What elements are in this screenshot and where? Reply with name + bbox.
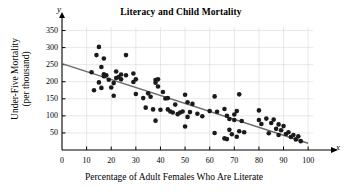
y-tick-label: 50 bbox=[36, 128, 58, 137]
x-tick-label: 20 bbox=[101, 156, 121, 165]
x-tick-label: 10 bbox=[77, 156, 97, 165]
y-tick-label: 150 bbox=[36, 94, 58, 103]
x-tick-label: 50 bbox=[175, 156, 195, 165]
x-axis-title: Percentage of Adult Females Who Are Lite… bbox=[24, 172, 324, 182]
y-tick-label: 100 bbox=[36, 111, 58, 120]
x-tick-label: 40 bbox=[150, 156, 170, 165]
y-axis-title-line1: Under-Five Mortality bbox=[10, 38, 20, 120]
x-tick-label: 60 bbox=[200, 156, 220, 165]
x-tick-label: 80 bbox=[249, 156, 269, 165]
y-tick-label: 250 bbox=[36, 60, 58, 69]
y-axis-letter: y bbox=[57, 4, 61, 14]
y-tick-label: 200 bbox=[36, 77, 58, 86]
x-tick-label: 0 bbox=[52, 156, 72, 165]
x-tick-label: 30 bbox=[126, 156, 146, 165]
chart-title: Literacy and Child Mortality bbox=[96, 7, 266, 17]
chart-figure: Literacy and Child Mortality y x 5010015… bbox=[0, 0, 348, 192]
x-tick-label: 70 bbox=[224, 156, 244, 165]
y-axis-title-line2: (per thousand) bbox=[21, 14, 32, 144]
y-axis-title: Under-Five Mortality (per thousand) bbox=[10, 14, 32, 144]
y-tick-label: 350 bbox=[36, 26, 58, 35]
x-axis-letter: x bbox=[336, 142, 340, 152]
data-points bbox=[89, 45, 303, 144]
x-tick-label: 100 bbox=[298, 156, 318, 165]
x-tick-label: 90 bbox=[274, 156, 294, 165]
y-tick-label: 300 bbox=[36, 43, 58, 52]
